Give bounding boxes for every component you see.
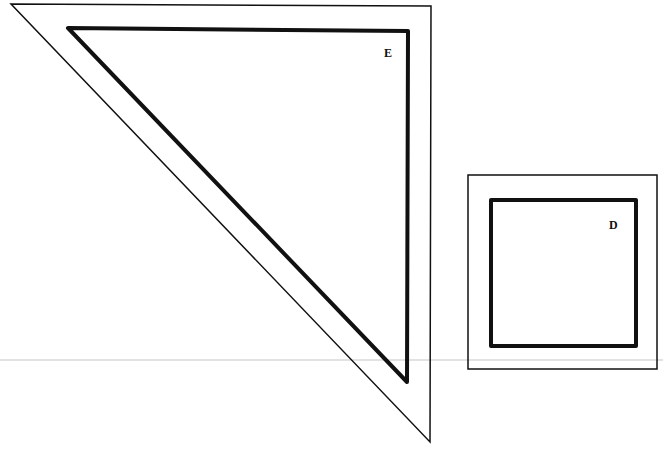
triangle-inner-border <box>68 28 408 382</box>
triangle-outer-border <box>11 4 431 442</box>
label-d: D <box>609 218 618 232</box>
shape-d-square: D <box>468 175 657 369</box>
square-outer-border <box>468 175 657 369</box>
label-e: E <box>384 46 392 60</box>
shape-e-triangle: E <box>11 4 431 442</box>
diagram-canvas: E D <box>0 0 663 449</box>
